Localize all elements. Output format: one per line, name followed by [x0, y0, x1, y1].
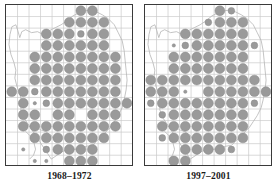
distribution-dot	[226, 29, 236, 39]
distribution-dot	[18, 87, 28, 97]
panel-caption-left: 1968–1972	[0, 171, 139, 181]
distribution-dot	[110, 75, 120, 85]
distribution-dot	[226, 64, 236, 74]
distribution-dot	[99, 110, 109, 120]
distribution-dot	[238, 133, 248, 143]
distribution-dot	[215, 64, 225, 74]
distribution-dot	[180, 29, 190, 39]
distribution-dot	[203, 98, 213, 108]
distribution-dot	[159, 111, 166, 118]
distribution-dot	[180, 156, 190, 166]
dot-layer-right	[145, 5, 271, 165]
distribution-dot	[18, 98, 28, 108]
distribution-dot	[64, 156, 74, 166]
distribution-dot	[7, 87, 17, 97]
distribution-dot	[53, 133, 63, 143]
distribution-dot	[238, 64, 248, 74]
distribution-dot	[169, 52, 179, 62]
distribution-dot	[226, 41, 236, 51]
distribution-dot	[172, 44, 175, 47]
distribution-dot	[87, 87, 97, 97]
distribution-dot	[53, 145, 63, 155]
distribution-dot	[41, 64, 51, 74]
distribution-dot	[180, 98, 190, 108]
distribution-dot	[99, 52, 109, 62]
distribution-dot	[76, 121, 86, 131]
distribution-dot	[76, 75, 86, 85]
distribution-dot	[215, 41, 225, 51]
distribution-dot	[78, 31, 85, 38]
distribution-dot	[180, 75, 190, 85]
distribution-dot	[64, 145, 74, 155]
distribution-dot	[43, 100, 50, 107]
distribution-dot	[238, 87, 248, 97]
distribution-dot	[251, 42, 258, 49]
distribution-dot	[238, 52, 248, 62]
distribution-dot	[192, 41, 202, 51]
distribution-dot	[76, 87, 86, 97]
distribution-dot	[87, 52, 97, 62]
distribution-dot	[192, 145, 202, 155]
distribution-dot	[64, 121, 74, 131]
distribution-dot	[99, 29, 109, 39]
distribution-dot	[215, 75, 225, 85]
distribution-dot	[226, 133, 236, 143]
distribution-dot	[87, 17, 97, 27]
distribution-dot	[41, 87, 51, 97]
distribution-dot	[87, 64, 97, 74]
distribution-dot	[76, 64, 86, 74]
distribution-dot	[180, 121, 190, 131]
distribution-dot	[53, 41, 63, 51]
distribution-dot	[64, 64, 74, 74]
distribution-dot	[203, 145, 213, 155]
distribution-dot	[238, 75, 248, 85]
distribution-dot	[226, 52, 236, 62]
distribution-dot	[30, 110, 40, 120]
distribution-dot	[157, 87, 167, 97]
distribution-dot	[215, 98, 225, 108]
distribution-dot	[182, 42, 189, 49]
distribution-dot	[192, 75, 202, 85]
map-panel-left: 1968–1972	[0, 0, 139, 191]
distribution-dot	[64, 41, 74, 51]
distribution-dot	[64, 87, 74, 97]
distribution-dot	[76, 98, 86, 108]
distribution-dot	[203, 133, 213, 143]
distribution-dot	[43, 146, 50, 153]
distribution-dot	[87, 41, 97, 51]
distribution-dot	[64, 29, 74, 39]
distribution-dot	[87, 110, 97, 120]
distribution-dot	[64, 75, 74, 85]
distribution-dot	[76, 156, 86, 166]
distribution-dot	[110, 121, 120, 131]
distribution-dot	[159, 135, 166, 142]
distribution-dot	[99, 133, 109, 143]
distribution-dot	[226, 17, 236, 27]
distribution-dot	[169, 133, 179, 143]
distribution-dot	[238, 29, 248, 39]
distribution-dot	[249, 87, 259, 97]
distribution-dot	[64, 98, 74, 108]
distribution-dot	[110, 110, 120, 120]
distribution-dot	[238, 110, 248, 120]
distribution-dot	[64, 52, 74, 62]
distribution-dot	[41, 133, 51, 143]
distribution-dot	[203, 121, 213, 131]
distribution-dot	[192, 133, 202, 143]
distribution-dot	[18, 110, 28, 120]
distribution-dot	[76, 133, 86, 143]
distribution-dot	[99, 87, 109, 97]
distribution-dot	[30, 133, 40, 143]
distribution-dot	[146, 87, 156, 97]
distribution-dot	[53, 110, 63, 120]
distribution-dot	[203, 87, 213, 97]
distribution-dot	[180, 133, 190, 143]
distribution-dot	[122, 98, 132, 108]
distribution-dot	[228, 7, 235, 14]
distribution-dot	[203, 41, 213, 51]
distribution-dot	[110, 87, 120, 97]
dot-layer-left	[6, 5, 132, 165]
distribution-dot	[45, 159, 48, 162]
map-frame-right	[144, 4, 272, 166]
distribution-dot	[169, 75, 179, 85]
